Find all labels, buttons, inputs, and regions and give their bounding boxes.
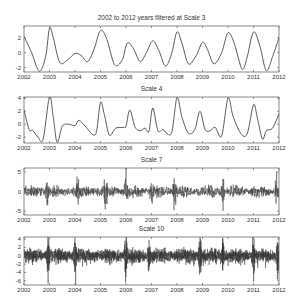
axes-frame (24, 97, 279, 143)
y-tick-label: 2 (18, 108, 22, 114)
x-tick-label: 2010 (221, 145, 235, 151)
x-tick-label: 2006 (119, 74, 133, 80)
x-tick-label: 2004 (68, 145, 82, 151)
y-tick-label: 0 (18, 50, 22, 56)
x-tick-label: 2007 (145, 217, 159, 223)
x-tick-label: 2003 (43, 74, 57, 80)
x-tick-label: 2011 (247, 145, 261, 151)
x-tick-label: 2010 (221, 217, 235, 223)
x-tick-label: 2009 (196, 74, 210, 80)
y-tick-label: -2 (16, 261, 22, 267)
x-tick-label: 2008 (170, 287, 184, 293)
x-tick-label: 2010 (221, 287, 235, 293)
x-tick-label: 2009 (196, 217, 210, 223)
y-tick-label: 0 (18, 121, 22, 127)
panel-scale-4: Scale 4 20022003200420052006200720082009… (16, 85, 287, 151)
x-tick-label: 2005 (94, 217, 108, 223)
x-tick-label: 2003 (43, 287, 57, 293)
x-tick-label: 2002 (17, 74, 31, 80)
x-tick-label: 2009 (196, 287, 210, 293)
x-tick-label: 2012 (272, 287, 286, 293)
x-tick-label: 2002 (17, 287, 31, 293)
x-tick-label: 2008 (170, 74, 184, 80)
x-tick-label: 2005 (94, 145, 108, 151)
x-tick-label: 2008 (170, 145, 184, 151)
y-tick-label: -2 (16, 65, 22, 71)
y-tick-label: -4 (16, 269, 22, 275)
chart-canvas: 2002 to 2012 years filtered at Scale 3 2… (0, 0, 301, 306)
x-tick-label: 2004 (68, 287, 82, 293)
x-tick-label: 2003 (43, 217, 57, 223)
series-line (24, 168, 279, 211)
panel-scale-3: 2002 to 2012 years filtered at Scale 3 2… (16, 14, 287, 80)
y-tick-label: -5 (16, 208, 22, 214)
x-tick-label: 2012 (272, 74, 286, 80)
y-tick-label: 0 (18, 253, 22, 259)
x-tick-label: 2002 (17, 145, 31, 151)
y-tick-label: 4 (18, 95, 22, 101)
x-tick-label: 2011 (247, 217, 261, 223)
x-tick-label: 2012 (272, 145, 286, 151)
y-tick-label: -6 (16, 278, 22, 284)
x-tick-label: 2004 (68, 74, 82, 80)
x-tick-label: 2002 (17, 217, 31, 223)
x-tick-label: 2008 (170, 217, 184, 223)
panel-title: Scale 4 (141, 85, 163, 92)
panel-title: Scale 10 (139, 225, 165, 232)
x-tick-label: 2009 (196, 145, 210, 151)
series-line (24, 97, 279, 143)
figure: 2002 to 2012 years filtered at Scale 3 2… (0, 0, 301, 306)
x-tick-label: 2007 (145, 74, 159, 80)
y-tick-label: 5 (18, 169, 22, 175)
x-tick-label: 2004 (68, 217, 82, 223)
x-tick-label: 2006 (119, 145, 133, 151)
x-tick-label: 2003 (43, 145, 57, 151)
x-tick-label: 2007 (145, 145, 159, 151)
y-tick-label: 0 (18, 189, 22, 195)
x-tick-label: 2007 (145, 287, 159, 293)
y-tick-label: -2 (16, 134, 22, 140)
x-tick-label: 2012 (272, 217, 286, 223)
x-tick-label: 2005 (94, 74, 108, 80)
panel-scale-10: Scale 10 2002200320042005200620072008200… (16, 225, 287, 293)
y-tick-label: 4 (18, 236, 22, 242)
x-tick-label: 2005 (94, 287, 108, 293)
y-tick-label: 2 (18, 244, 22, 250)
panel-title: 2002 to 2012 years filtered at Scale 3 (98, 14, 206, 22)
x-tick-label: 2011 (247, 74, 261, 80)
panel-title: Scale 7 (141, 156, 163, 163)
series-line (24, 27, 279, 71)
x-tick-label: 2010 (221, 74, 235, 80)
x-tick-label: 2011 (247, 287, 261, 293)
panel-scale-7: Scale 7 20022003200420052006200720082009… (16, 156, 287, 223)
x-tick-label: 2006 (119, 287, 133, 293)
x-tick-label: 2006 (119, 217, 133, 223)
y-tick-label: 2 (18, 35, 22, 41)
